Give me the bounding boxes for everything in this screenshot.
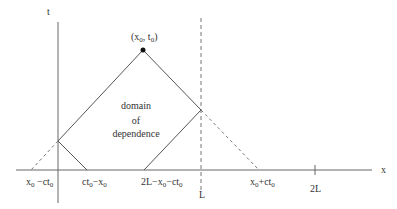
right-reflected-line [144, 110, 201, 170]
tick-label-x0-plus-ct0: x0+ct0 [250, 176, 275, 189]
left-dashed-extension [31, 141, 58, 170]
tick-label-x0-minus-ct0: x0 −ct0 [26, 176, 54, 189]
left-reflected-line [58, 141, 87, 170]
x-axis-label: x [381, 164, 386, 175]
apex-label: (x0, t0) [131, 31, 157, 44]
tick-label-2L-minus-x0-minus-ct0: 2L−x0−ct0 [141, 176, 183, 189]
tick-label-ct0-minus-x0: ct0−x0 [82, 176, 107, 189]
domain-of-dependence-diagram: t x (x0, t0) domain of dependence x0 −ct… [0, 0, 397, 209]
tick-label-2L: 2L [310, 183, 321, 194]
region-label-line2: of [132, 115, 141, 126]
tick-label-L: L [199, 189, 205, 200]
region-label-line3: dependence [112, 128, 160, 139]
apex-point [141, 48, 146, 53]
region-label-line1: domain [121, 100, 151, 111]
right-dashed-extension [201, 110, 259, 170]
right-characteristic [143, 50, 201, 110]
t-axis-label: t [47, 6, 50, 17]
